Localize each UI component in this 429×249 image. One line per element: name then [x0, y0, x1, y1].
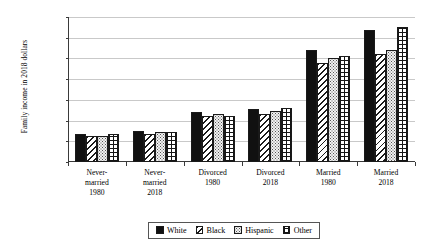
bar-white-never-married-2018[interactable]: [133, 131, 144, 162]
bar-hispanic-divorced-1980[interactable]: [213, 114, 224, 162]
x-axis-tick-mark: [299, 162, 300, 166]
legend-swatch-black-icon: [196, 226, 204, 234]
legend-swatch-hispanic-icon: [234, 226, 242, 234]
bar-other-never-married-2018[interactable]: [166, 132, 177, 162]
x-axis-tick-mark: [184, 162, 185, 166]
bar-black-divorced-2018[interactable]: [259, 114, 270, 162]
x-axis-label-line: 1980: [299, 178, 357, 188]
bar-group: [184, 17, 242, 162]
legend-item-white[interactable]: White: [156, 226, 187, 235]
x-axis-label-line: Divorced: [241, 168, 299, 178]
x-axis-label-line: Married: [299, 168, 357, 178]
bar-white-married-1980[interactable]: [306, 50, 317, 162]
bar-white-divorced-1980[interactable]: [191, 112, 202, 162]
legend-item-hispanic[interactable]: Hispanic: [234, 226, 273, 235]
legend: WhiteBlackHispanicOther: [148, 222, 320, 239]
bar-black-never-married-1980[interactable]: [86, 136, 97, 162]
x-axis-label-line: Divorced: [184, 168, 242, 178]
x-axis-label: Married1980: [299, 168, 357, 199]
x-axis-label: Never-married1980: [68, 168, 126, 199]
x-axis-tick-mark: [68, 162, 69, 166]
x-axis-label-line: Never-: [126, 168, 184, 178]
legend-swatch-other-icon: [283, 226, 291, 234]
y-axis-title: Family income in 2018 dollars: [20, 7, 29, 167]
legend-item-black[interactable]: Black: [196, 226, 226, 235]
x-axis-label-line: married: [126, 178, 184, 188]
legend-swatch-white-icon: [156, 226, 164, 234]
x-axis-label-line: Never-: [68, 168, 126, 178]
legend-item-other[interactable]: Other: [283, 226, 312, 235]
x-axis-label-line: 1980: [68, 188, 126, 198]
bar-hispanic-divorced-2018[interactable]: [270, 111, 281, 162]
bar-white-never-married-1980[interactable]: [75, 134, 86, 162]
legend-label: Hispanic: [245, 226, 273, 235]
x-axis-label: Divorced1980: [184, 168, 242, 199]
x-axis-label-line: 2018: [126, 188, 184, 198]
bar-other-married-1980[interactable]: [339, 56, 350, 162]
x-axis-label: Divorced2018: [241, 168, 299, 199]
x-axis-label-line: 2018: [241, 178, 299, 188]
bar-black-never-married-2018[interactable]: [144, 134, 155, 162]
bar-chart: Family income in 2018 dollars 0$20,000$4…: [0, 0, 429, 249]
bar-black-divorced-1980[interactable]: [202, 116, 213, 162]
bar-other-married-2018[interactable]: [397, 27, 408, 162]
x-axis-label-group: Never-married1980Never-married2018Divorc…: [68, 168, 415, 199]
bar-hispanic-never-married-2018[interactable]: [155, 132, 166, 162]
x-axis-label-line: 1980: [184, 178, 242, 188]
bar-white-divorced-2018[interactable]: [248, 109, 259, 162]
bar-other-divorced-2018[interactable]: [281, 108, 292, 162]
legend-label: Black: [207, 226, 226, 235]
x-axis-label: Never-married2018: [126, 168, 184, 199]
bar-black-married-2018[interactable]: [375, 54, 386, 162]
bar-group-container: [68, 17, 415, 162]
bar-hispanic-married-1980[interactable]: [328, 58, 339, 162]
bar-group: [299, 17, 357, 162]
bar-white-married-2018[interactable]: [364, 30, 375, 162]
legend-label: Other: [294, 226, 312, 235]
x-axis-tick-mark: [357, 162, 358, 166]
bar-other-divorced-1980[interactable]: [224, 116, 235, 162]
bar-group: [357, 17, 415, 162]
x-axis-tick-mark: [415, 162, 416, 166]
bar-group: [241, 17, 299, 162]
x-axis-label: Married2018: [357, 168, 415, 199]
bar-other-never-married-1980[interactable]: [108, 134, 119, 162]
x-axis-label-line: married: [68, 178, 126, 188]
x-axis-label-line: Married: [357, 168, 415, 178]
bar-hispanic-never-married-1980[interactable]: [97, 136, 108, 162]
x-axis-tick-mark: [242, 162, 243, 166]
legend-label: White: [167, 226, 187, 235]
bar-black-married-1980[interactable]: [317, 63, 328, 162]
x-axis-label-line: 2018: [357, 178, 415, 188]
bar-group: [68, 17, 126, 162]
bar-hispanic-married-2018[interactable]: [386, 50, 397, 162]
x-axis-tick-mark: [126, 162, 127, 166]
bar-group: [126, 17, 184, 162]
